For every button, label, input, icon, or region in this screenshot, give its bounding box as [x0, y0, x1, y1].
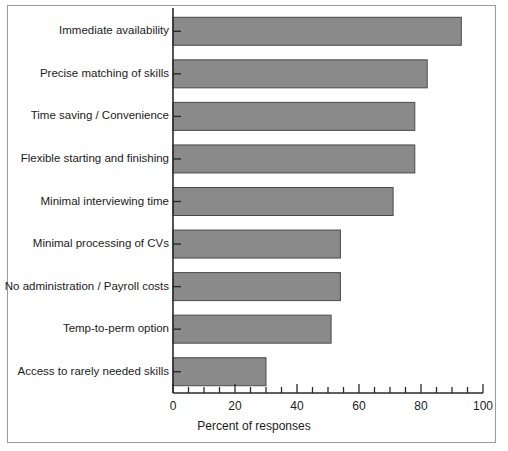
- x-tick-label: 20: [228, 399, 241, 413]
- x-tick-label: 0: [170, 399, 177, 413]
- x-tick-label: 60: [352, 399, 365, 413]
- bar-chart-figure: Immediate availabilityPrecise matching o…: [0, 0, 508, 451]
- bar: [173, 102, 415, 130]
- x-axis-title: Percent of responses: [0, 419, 508, 433]
- bar: [173, 315, 331, 343]
- x-tick-label: 40: [290, 399, 303, 413]
- bar: [173, 60, 427, 88]
- bar: [173, 188, 393, 216]
- bar: [173, 145, 415, 173]
- bars-group: [173, 17, 461, 385]
- bar: [173, 273, 340, 301]
- plot-area: [0, 0, 508, 451]
- x-tick-label: 100: [473, 399, 493, 413]
- bar: [173, 230, 340, 258]
- bar: [173, 358, 266, 386]
- x-tick-label: 80: [414, 399, 427, 413]
- bar: [173, 17, 461, 45]
